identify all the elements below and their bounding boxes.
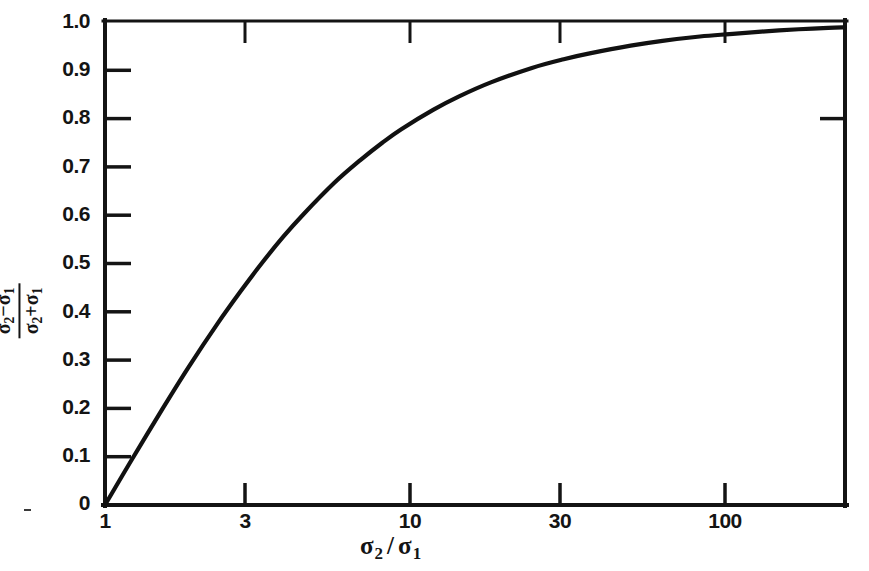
y-axis-title-denominator: σ2+σ1	[20, 284, 45, 339]
y-axis-title: σ2−σ1 σ2+σ1	[0, 284, 45, 339]
y-tick-label: 0.5	[28, 250, 90, 274]
y-tick-label: 0.6	[28, 202, 90, 226]
x-tick-marks-bottom	[245, 483, 725, 505]
x-axis-title-slash: /	[384, 532, 398, 559]
x-tick-marks-top	[245, 21, 725, 43]
x-tick-label: 1	[75, 509, 135, 533]
data-curve	[105, 27, 845, 505]
y-tick-label: 1.0	[28, 9, 90, 33]
x-axis-title-sigma2: σ2	[360, 532, 384, 559]
y-tick-label: 0.8	[28, 105, 90, 129]
plot-canvas	[0, 0, 869, 571]
y-axis-title-fraction: σ2−σ1 σ2+σ1	[0, 284, 45, 339]
x-axis-title: σ2/σ1	[360, 532, 422, 564]
y-tick-marks	[105, 70, 131, 456]
x-tick-label: 100	[695, 509, 755, 533]
y-tick-label: 0.9	[28, 57, 90, 81]
x-tick-label: 10	[380, 509, 440, 533]
x-tick-label: 3	[215, 509, 275, 533]
y-tick-label: 0.7	[28, 154, 90, 178]
x-tick-label: 30	[530, 509, 590, 533]
x-axis-title-sigma1: σ1	[398, 532, 422, 559]
figure-panel: 1.0 0.9 0.8 0.7 0.6 0.5 0.4 0.3 0.2 0.1 …	[0, 0, 869, 571]
scan-speck	[24, 509, 31, 511]
axis-frame	[103, 20, 847, 506]
y-tick-label: 0.3	[28, 347, 90, 371]
y-axis-title-numerator: σ2−σ1	[0, 284, 20, 339]
y-tick-label: 0.1	[28, 443, 90, 467]
y-tick-label: 0.2	[28, 395, 90, 419]
